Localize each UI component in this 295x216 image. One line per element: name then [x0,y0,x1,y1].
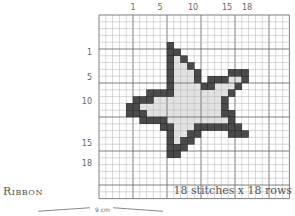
stitch-fill-cell [187,90,194,97]
stitch-fill-cell [208,117,215,124]
stitch-fill-cell [221,117,228,124]
stitch-outline-cell [194,76,201,83]
stitch-outline-cell [126,103,133,110]
stitch-fill-cell [174,63,181,70]
row-label: 18 [80,159,92,168]
stitch-outline-cell [201,124,208,131]
stitch-outline-cell [167,131,174,138]
column-label: 1 [130,3,135,12]
stitch-fill-cell [160,103,167,110]
stitch-outline-cell [228,69,235,76]
stitch-outline-cell [221,124,228,131]
stitch-fill-cell [215,117,222,124]
stitch-fill-cell [147,103,154,110]
stitch-fill-cell [215,103,222,110]
stitch-fill-cell [167,103,174,110]
stitch-outline-cell [208,83,215,90]
row-label: 5 [80,73,92,82]
stitch-outline-cell [174,49,181,56]
stitch-fill-cell [215,97,222,104]
stitch-fill-cell [187,124,194,131]
stitch-fill-cell [174,137,181,144]
stitch-outline-cell [174,144,181,151]
stitch-outline-cell [187,131,194,138]
stitch-fill-cell [215,90,222,97]
stitch-outline-cell [208,76,215,83]
stitch-fill-cell [187,76,194,83]
stitch-fill-cell [160,97,167,104]
stitch-fill-cell [181,76,188,83]
stitch-outline-cell [201,83,208,90]
stitch-outline-cell [167,83,174,90]
stitch-fill-cell [187,69,194,76]
stitch-fill-cell [181,90,188,97]
stitch-outline-cell [167,63,174,70]
stitch-fill-cell [147,110,154,117]
stitch-fill-cell [174,97,181,104]
stitch-outline-cell [235,124,242,131]
stitch-fill-cell [187,117,194,124]
stitch-fill-cell [194,110,201,117]
stitch-fill-cell [160,110,167,117]
stitch-outline-cell [221,103,228,110]
stitch-outline-cell [215,124,222,131]
stitch-fill-cell [187,103,194,110]
stitch-fill-cell [140,103,147,110]
stitch-outline-cell [235,69,242,76]
stitch-outline-cell [242,76,249,83]
stitch-fill-cell [201,103,208,110]
stitch-fill-cell [215,110,222,117]
stitch-fill-cell [187,110,194,117]
stitch-outline-cell [221,110,228,117]
column-label: 18 [242,3,252,12]
stitch-fill-cell [208,110,215,117]
stitch-fill-cell [181,117,188,124]
stitch-fill-cell [181,110,188,117]
column-label: 15 [222,3,232,12]
stitch-fill-cell [174,90,181,97]
stitch-outline-cell [140,117,147,124]
stitch-fill-cell [174,103,181,110]
stitch-fill-cell [181,97,188,104]
stitch-outline-cell [167,56,174,63]
stitch-fill-cell [167,117,174,124]
column-label: 5 [157,3,162,12]
stitch-outline-cell [167,137,174,144]
stitch-fill-cell [194,83,201,90]
stitch-outline-cell [174,151,181,158]
stitch-outline-cell [167,124,174,131]
stitch-outline-cell [140,110,147,117]
stitch-outline-cell [221,76,228,83]
stitch-outline-cell [167,69,174,76]
stitch-outline-cell [147,117,154,124]
stitch-fill-cell [194,103,201,110]
stitch-outline-cell [242,69,249,76]
stitch-outline-cell [181,144,188,151]
stitch-fill-cell [174,69,181,76]
stitch-outline-cell [153,117,160,124]
stitch-fill-cell [181,124,188,131]
stitch-outline-cell [181,137,188,144]
stitch-fill-cell [215,83,222,90]
stitch-fill-cell [201,97,208,104]
stitch-outline-cell [181,56,188,63]
stitch-fill-cell [181,83,188,90]
stitch-outline-cell [153,90,160,97]
stitch-fill-cell [228,83,235,90]
stitch-count-caption: 18 stitches x 18 rows [173,184,292,197]
stitch-fill-cell [174,76,181,83]
stitch-outline-cell [235,131,242,138]
stitch-outline-cell [187,63,194,70]
stitch-outline-cell [133,97,140,104]
stitch-outline-cell [228,110,235,117]
stitch-fill-cell [174,124,181,131]
stitch-outline-cell [133,110,140,117]
stitch-fill-cell [167,97,174,104]
stitch-fill-cell [174,83,181,90]
stitch-fill-cell [153,97,160,104]
stitch-fill-cell [201,117,208,124]
stitch-fill-cell [208,103,215,110]
stitch-outline-cell [208,124,215,131]
stitch-outline-cell [147,97,154,104]
stitch-outline-cell [221,97,228,104]
